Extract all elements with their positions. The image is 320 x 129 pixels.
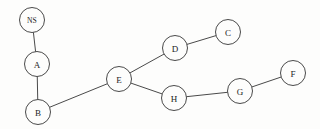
graph-node-label-b: B [35,108,41,118]
graph-edge-e-d [130,54,164,73]
graph-canvas: NSABEDCHGF [0,0,320,129]
graph-node-label-d: D [172,44,179,54]
graph-edge-ns-a [33,32,35,51]
graph-node-label-a: A [34,60,41,70]
graph-node-ns[interactable]: NS [20,8,45,33]
graph-edge-d-c [187,36,216,45]
graph-edge-h-g [186,92,227,96]
graph-node-label-g: G [237,87,244,97]
graph-node-h[interactable]: H [162,86,187,111]
network-graph: NSABEDCHGF [0,0,320,129]
graph-node-b[interactable]: B [26,100,51,125]
graph-node-label-h: H [171,94,178,104]
graph-node-a[interactable]: A [25,52,50,77]
graph-node-g[interactable]: G [228,79,253,104]
graph-node-f[interactable]: F [281,61,306,86]
graph-edge-g-f [252,77,281,87]
graph-node-d[interactable]: D [163,36,188,61]
graph-node-e[interactable]: E [107,67,132,92]
graph-edge-e-h [131,83,162,94]
graph-node-label-c: C [225,28,231,38]
graph-node-label-f: F [290,69,295,79]
graph-node-c[interactable]: C [216,20,241,45]
graph-node-label-ns: NS [27,16,37,25]
graph-edge-b-e [50,84,108,108]
graph-nodes-layer: NSABEDCHGF [20,8,306,125]
graph-node-label-e: E [116,75,122,85]
